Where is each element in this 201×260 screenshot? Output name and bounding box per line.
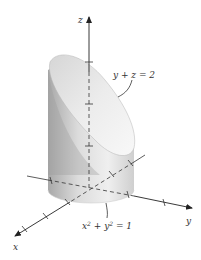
plane-equation-label: y + z = 2 [112, 70, 155, 80]
cylinder-plane-diagram: z y x y + z = 2 x2 + y2 = 1 [0, 0, 201, 260]
x-axis-label: x [13, 242, 18, 252]
cylinder-equation-label: x2 + y2 = 1 [82, 220, 132, 231]
plane-leader-line [118, 80, 132, 97]
z-axis-label: z [77, 15, 83, 25]
y-axis-label: y [185, 216, 192, 226]
y-axis-front [134, 196, 192, 208]
y-axis-back [27, 176, 48, 180]
eq-tail: = 1 [113, 221, 132, 231]
x-axis-front [15, 202, 70, 236]
cylinder-leader-line [106, 203, 107, 218]
x-axis-back [134, 155, 145, 162]
eq-mid: + y [91, 221, 110, 231]
